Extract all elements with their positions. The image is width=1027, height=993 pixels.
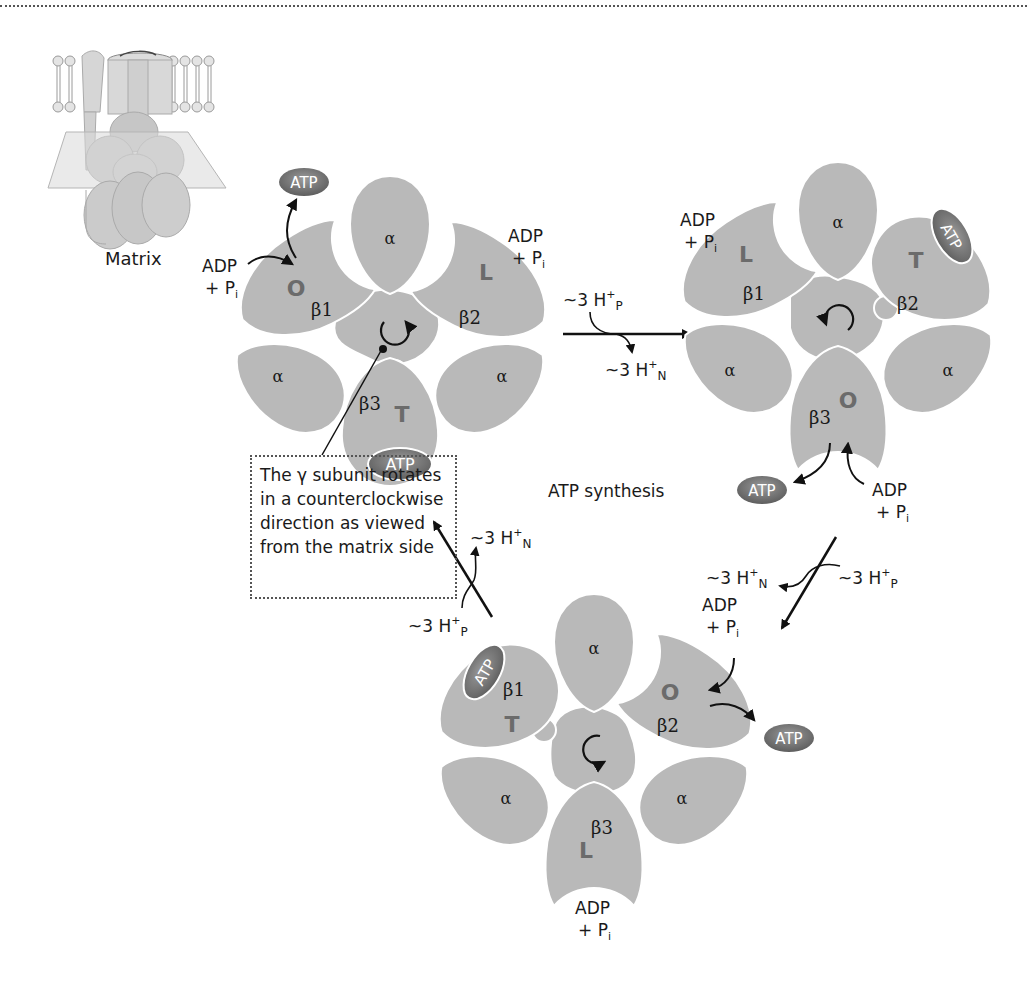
callout-line: The γ subunit rotates xyxy=(260,463,443,487)
gamma-rotation-callout-text: The γ subunit rotates in a counterclockw… xyxy=(250,455,453,595)
beta3-label: β3 xyxy=(809,407,831,428)
f1-state-2: α α α L β1 T β2 O β3 ATP xyxy=(660,162,1012,470)
alpha-label: α xyxy=(589,639,600,658)
adp-label: ADP xyxy=(702,595,737,615)
adp-label: ADP xyxy=(680,210,715,230)
alpha-subunit xyxy=(421,732,563,860)
state-3-released-atp: ATP xyxy=(764,724,814,752)
pi-label: + Pi xyxy=(512,248,545,271)
beta1-label: β1 xyxy=(503,679,525,700)
beta3-state-letter: T xyxy=(394,402,409,427)
beta2-label: β2 xyxy=(657,715,679,736)
beta2-label: β2 xyxy=(459,307,481,328)
adp-label: ADP xyxy=(202,256,237,276)
adp-label: ADP xyxy=(872,480,907,500)
alpha-label: α xyxy=(943,361,954,380)
beta1-state-letter: T xyxy=(504,712,519,737)
pi-label: + Pi xyxy=(578,920,611,943)
pi-label: + Pi xyxy=(876,502,909,525)
state-1-released-atp: ATP xyxy=(279,168,329,196)
beta1-state-letter: O xyxy=(287,276,306,301)
alpha-label: α xyxy=(677,789,688,808)
atp-synthesis-title: ATP synthesis xyxy=(548,481,665,501)
svg-text:ATP: ATP xyxy=(775,730,802,748)
beta1-state-letter: L xyxy=(739,242,753,267)
alpha-label: α xyxy=(833,213,844,232)
beta3-state-letter: O xyxy=(839,388,858,413)
svg-text:ATP: ATP xyxy=(748,482,775,500)
alpha-label: α xyxy=(497,367,508,386)
beta1-label: β1 xyxy=(311,299,333,320)
alpha-label: α xyxy=(501,789,512,808)
f1-state-1: α α α O β1 L β2 β3 T ATP xyxy=(217,176,567,486)
alpha-label: α xyxy=(385,229,396,248)
beta3-state-letter: L xyxy=(579,838,593,863)
alpha-label: α xyxy=(725,361,736,380)
callout-anchor-dot xyxy=(379,345,387,353)
svg-text:ATP: ATP xyxy=(290,174,317,192)
adp-label: ADP xyxy=(508,226,543,246)
state-2-released-atp: ATP xyxy=(737,476,787,504)
matrix-label: Matrix xyxy=(105,248,162,269)
proton-out-label: ~3 H+N xyxy=(605,358,666,383)
transition-arrow-1-to-2: ~3 H+P ~3 H+N xyxy=(563,288,690,383)
beta2-label: β2 xyxy=(897,293,919,314)
callout-line: in a counterclockwise xyxy=(260,487,443,511)
beta2-state-letter: L xyxy=(479,260,493,285)
beta3-label: β3 xyxy=(591,817,613,838)
alpha-subunit xyxy=(420,320,562,448)
atp-synthase-inset-illustration xyxy=(48,51,226,249)
pi-label: + Pi xyxy=(205,278,238,301)
pi-label: + Pi xyxy=(684,232,717,255)
alpha-subunit xyxy=(624,732,766,860)
gamma-subunit xyxy=(550,707,636,794)
proton-in-label: ~3 H+P xyxy=(838,566,898,591)
proton-in-label: ~3 H+P xyxy=(563,288,623,313)
proton-in-label: ~3 H+P xyxy=(408,614,468,639)
beta1-label: β1 xyxy=(743,283,765,304)
f1-state-3: α α α β1 T O β2 β3 L ATP xyxy=(418,594,774,906)
beta2-state-letter: T xyxy=(908,248,923,273)
alpha-subunit xyxy=(665,300,807,428)
proton-out-label: ~3 H+N xyxy=(706,566,767,591)
alpha-label: α xyxy=(273,367,284,386)
beta3-label: β3 xyxy=(359,393,381,414)
callout-line: from the matrix side xyxy=(260,535,443,559)
pi-label: + Pi xyxy=(706,617,739,640)
callout-line: direction as viewed xyxy=(260,511,443,535)
beta2-state-letter: O xyxy=(661,680,680,705)
atp-synthase-binding-change-diagram: Matrix α α α O β1 L β2 β3 T ATP ATP xyxy=(0,0,1027,993)
proton-out-label: ~3 H+N xyxy=(470,526,531,551)
beta3-subunit-loose xyxy=(545,782,642,906)
adp-label: ADP xyxy=(575,898,610,918)
